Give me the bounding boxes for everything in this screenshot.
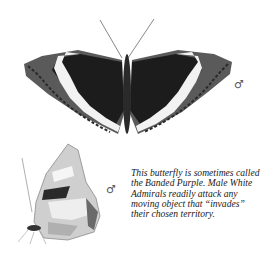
male-symbol-icon: ♂ xyxy=(234,79,244,90)
closed-wings xyxy=(34,144,100,240)
butterfly-side-illustration xyxy=(8,142,104,246)
antenna xyxy=(22,158,32,212)
butterfly-body xyxy=(123,54,131,134)
caption-line: their chosen territory. xyxy=(131,209,271,219)
right-wings xyxy=(130,50,232,134)
butterfly-body xyxy=(27,225,41,231)
butterfly-dorsal-illustration xyxy=(18,14,240,140)
antenna-right xyxy=(128,19,154,58)
male-symbol-icon: ♂ xyxy=(106,184,116,195)
caption-text: This butterfly is sometimes called the B… xyxy=(131,168,271,219)
antenna-left xyxy=(100,20,122,58)
left-wings xyxy=(24,50,124,134)
